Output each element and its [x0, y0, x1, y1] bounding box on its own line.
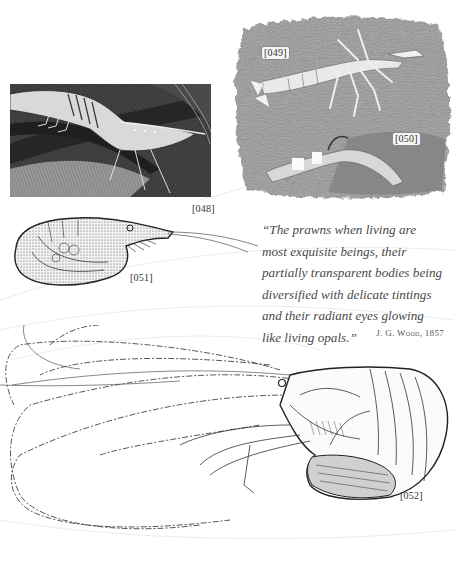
figure-052	[0, 325, 454, 563]
quote-line: most exquisite beings, their	[262, 241, 452, 263]
quote-line: partially transparent bodies being	[262, 262, 452, 284]
figure-label-049: [049]	[261, 46, 290, 60]
figure-label-050: [050]	[392, 132, 421, 146]
quote-line: and their radiant eyes glowing	[262, 305, 452, 327]
figure-049-050	[228, 10, 452, 200]
shrimp-engraving-dark	[10, 84, 211, 197]
quote-line: diversified with delicate tintings	[262, 284, 452, 306]
figure-label-051: [051]	[130, 272, 153, 283]
large-prawn-engraving	[0, 325, 454, 563]
quote-line: “The prawns when living are	[262, 219, 452, 241]
figure-048	[10, 84, 211, 197]
shrimp-engraving-grey	[228, 10, 452, 200]
figure-label-052: [052]	[400, 490, 423, 501]
